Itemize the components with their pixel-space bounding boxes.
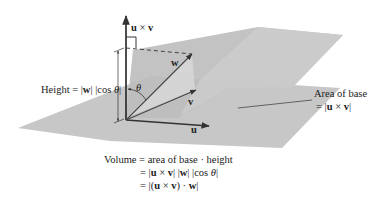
right-angle-marker [126,37,136,48]
volume-line-1: Volume = area of base · height [104,154,233,167]
height-label: Height = |w| |cos θ| [41,84,121,96]
area-of-base-formula: = |u × v| [316,101,351,113]
volume-line-3: = |(u × v) · w| [140,180,198,193]
height-tick-top [114,48,124,52]
v-label: v [188,96,193,108]
w-label: w [171,57,179,69]
theta-label: θ [136,82,141,94]
volume-line-2: = |u × v| |w| |cos θ| [140,167,218,180]
u-label: u [191,124,197,136]
area-of-base-label: Area of base [314,88,367,100]
cross-product-label: u × v [131,22,153,34]
